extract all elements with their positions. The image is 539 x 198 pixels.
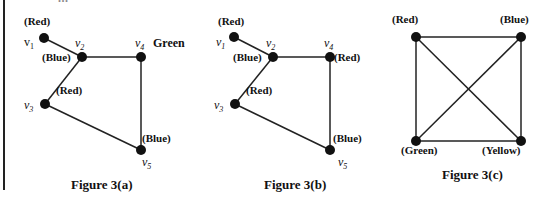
color-label-v2: (Blue): [42, 52, 71, 63]
vertex-label-v1: v1: [216, 36, 225, 51]
vertex-label-v4: v4: [324, 37, 333, 52]
figure-3b-caption: Figure 3(b): [264, 178, 326, 191]
color-label-br: (Yellow): [482, 145, 521, 156]
edge-v3-v5: [235, 104, 330, 150]
vertex-v2: [268, 52, 278, 62]
color-label-v4: Green: [153, 37, 185, 49]
vertex-label-v2: v2: [266, 37, 275, 52]
vertex-tl: [411, 32, 421, 42]
edge-v3-v5: [45, 104, 141, 150]
color-label-bl: (Green): [401, 145, 437, 156]
vertex-label-v3: v3: [24, 99, 33, 114]
vertex-v3: [40, 99, 50, 109]
vertex-v2: [77, 52, 87, 62]
vertex-v1: [39, 33, 49, 43]
edge-v2-v3: [235, 57, 273, 104]
color-label-v5: (Blue): [333, 133, 362, 144]
color-label-v1: (Red): [218, 16, 244, 27]
figure-3a-caption: Figure 3(a): [71, 178, 133, 191]
color-label-v4: (Red): [334, 52, 360, 63]
vertex-label-v4: v4: [135, 37, 144, 52]
vertex-label-v1: v1: [24, 36, 34, 51]
vertex-v3: [230, 99, 240, 109]
color-label-v3: (Red): [56, 85, 82, 96]
color-label-tr: (Blue): [500, 14, 529, 25]
vertex-v4: [136, 52, 146, 62]
vertex-v5: [136, 145, 146, 155]
color-label-v3: (Red): [246, 85, 272, 96]
figure-3c-graph: [411, 32, 526, 146]
vertex-label-v5: v5: [338, 156, 347, 171]
edge-v2-v3: [45, 57, 82, 104]
vertex-v5: [325, 145, 335, 155]
color-label-v2: (Blue): [233, 52, 262, 63]
figure-3c-caption: Figure 3(c): [442, 168, 503, 181]
vertex-label-v2: v2: [75, 37, 84, 52]
vertex-label-v3: v3: [214, 99, 223, 114]
color-label-v1: (Red): [24, 16, 50, 27]
vertex-label-v5: v5: [142, 156, 151, 171]
vertex-tr: [516, 32, 526, 42]
color-label-tl: (Red): [392, 14, 418, 25]
vertex-v1: [229, 32, 239, 42]
color-label-v5: (Blue): [142, 133, 171, 144]
